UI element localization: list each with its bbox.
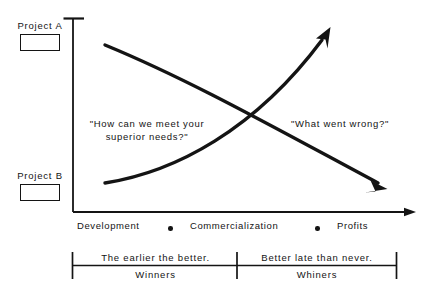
- legend-project-b: Project B: [11, 170, 69, 201]
- axis-category-profits: Profits: [337, 220, 368, 231]
- bracket-left-label: Winners: [78, 269, 233, 280]
- legend-project-a: Project A: [11, 20, 69, 51]
- project-b-curve: [105, 40, 322, 183]
- legend-project-a-label: Project A: [11, 20, 69, 31]
- project-a-curve: [105, 45, 378, 183]
- axis-category-development: Development: [77, 220, 140, 231]
- axis-separator-dot-1: [168, 226, 173, 231]
- bracket-left-caption: The earlier the better.: [78, 252, 233, 263]
- legend-project-a-swatch: [20, 34, 60, 51]
- bracket-right-caption: Better late than never.: [241, 252, 393, 263]
- quote-project-b: "How can we meet your superior needs?": [84, 118, 210, 143]
- x-axis-arrowhead: [404, 208, 416, 216]
- legend-project-b-swatch: [20, 184, 60, 201]
- quote-project-b-line2: superior needs?": [84, 131, 210, 144]
- quote-project-a: "What went wrong?": [291, 118, 409, 131]
- axis-category-commercialization: Commercialization: [190, 220, 278, 231]
- axis-separator-dot-2: [315, 226, 320, 231]
- diagram-canvas: Project A Project B "How can we meet you…: [0, 0, 428, 300]
- quote-project-b-line1: "How can we meet your: [84, 118, 210, 131]
- bracket-right-label: Whiners: [241, 269, 393, 280]
- legend-project-b-label: Project B: [11, 170, 69, 181]
